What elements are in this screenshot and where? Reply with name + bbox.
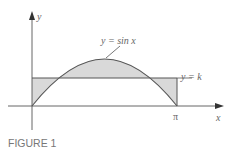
x-tick-pi: π bbox=[173, 111, 178, 122]
curve-label-leader bbox=[106, 46, 120, 58]
y-axis-label: y bbox=[36, 11, 42, 22]
x-axis-arrow-icon bbox=[215, 103, 224, 109]
figure-caption: FIGURE 1 bbox=[8, 137, 57, 149]
curve-label-sin: y = sin x bbox=[100, 35, 136, 46]
figure-canvas: y x π y = sin x y = k FIGURE 1 bbox=[0, 0, 234, 157]
line-label-k: y = k bbox=[180, 71, 202, 82]
x-axis-label: x bbox=[215, 112, 221, 123]
y-axis-arrow-icon bbox=[29, 11, 35, 20]
